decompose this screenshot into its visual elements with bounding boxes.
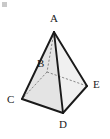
vertex-label-B: B [37, 58, 44, 69]
pyramid-figure: A B C D E [0, 0, 110, 139]
vertex-label-C: C [7, 94, 14, 105]
vertex-label-D: D [59, 119, 67, 130]
vertex-label-E: E [93, 79, 100, 90]
vertex-label-A: A [50, 13, 58, 24]
